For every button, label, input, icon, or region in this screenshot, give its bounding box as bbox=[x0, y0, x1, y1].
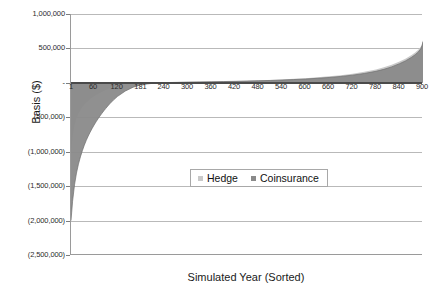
chart-legend: HedgeCoinsurance bbox=[190, 169, 328, 187]
plot-area bbox=[70, 14, 422, 255]
area-series-coinsurance bbox=[71, 42, 423, 221]
x-tick-label: 240 bbox=[153, 82, 175, 91]
x-tick-label: 660 bbox=[317, 82, 339, 91]
legend-label: Coinsurance bbox=[260, 173, 319, 184]
x-tick-label: 181 bbox=[129, 82, 151, 91]
y-tick-label: (500,000) bbox=[0, 113, 65, 121]
x-tick-label: 120 bbox=[106, 82, 128, 91]
x-tick-label: 360 bbox=[200, 82, 222, 91]
legend-label: Hedge bbox=[207, 173, 238, 184]
legend-item[interactable]: Coinsurance bbox=[251, 173, 319, 184]
legend-swatch-icon bbox=[251, 176, 256, 181]
legend-swatch-icon bbox=[198, 176, 203, 181]
x-tick-label: 300 bbox=[176, 82, 198, 91]
area-series-hedge bbox=[71, 40, 423, 155]
series-layer bbox=[71, 14, 423, 255]
y-tick-label: - bbox=[0, 79, 65, 87]
x-tick-label: 900 bbox=[411, 82, 433, 91]
y-axis-title: Basis ($) bbox=[30, 62, 42, 142]
y-tick-label: (2,500,000) bbox=[0, 251, 65, 259]
x-tick-label: 780 bbox=[364, 82, 386, 91]
y-tick-mark bbox=[66, 255, 70, 256]
x-axis-ticks: 1601201812403003604204805406006607207808… bbox=[70, 82, 422, 94]
line-series-coinsurance bbox=[71, 42, 423, 221]
x-tick-label: 1 bbox=[69, 82, 79, 91]
x-tick-label: 420 bbox=[223, 82, 245, 91]
y-tick-label: (2,000,000) bbox=[0, 217, 65, 225]
x-tick-label: 840 bbox=[388, 82, 410, 91]
x-axis-title: Simulated Year (Sorted) bbox=[70, 271, 422, 283]
y-tick-label: 500,000 bbox=[0, 44, 65, 52]
x-tick-label: 540 bbox=[270, 82, 292, 91]
x-tick-label: 480 bbox=[247, 82, 269, 91]
y-tick-label: 1,000,000 bbox=[0, 10, 65, 18]
x-tick-label: 60 bbox=[82, 82, 104, 91]
y-tick-label: (1,000,000) bbox=[0, 148, 65, 156]
y-tick-label: (1,500,000) bbox=[0, 182, 65, 190]
legend-item[interactable]: Hedge bbox=[198, 173, 238, 184]
x-tick-label: 600 bbox=[294, 82, 316, 91]
x-tick-label: 720 bbox=[341, 82, 363, 91]
